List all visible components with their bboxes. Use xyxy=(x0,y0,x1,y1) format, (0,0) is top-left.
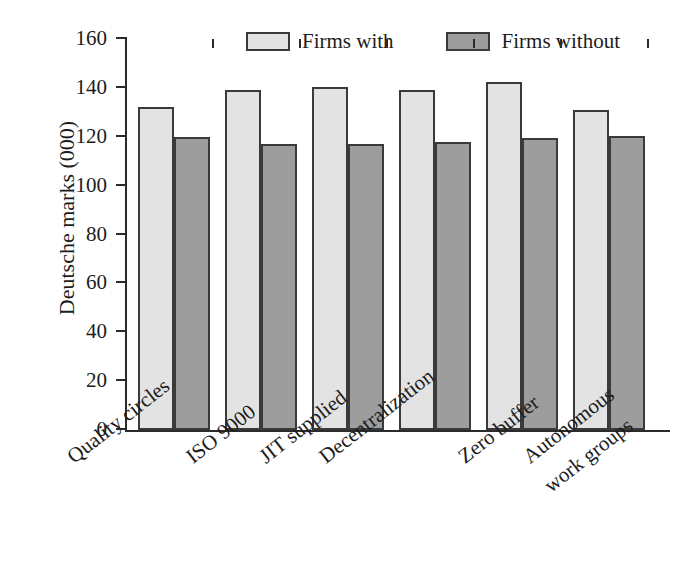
x-tick-6 xyxy=(647,39,649,48)
y-tick-100: 100 xyxy=(116,184,125,186)
x-tick-0 xyxy=(125,39,127,48)
y-tick-20: 20 xyxy=(116,379,125,381)
bar-chart: Firms with Firms without 160 140 120 100… xyxy=(0,0,688,583)
y-tick-120: 120 xyxy=(116,135,125,137)
y-tick-140: 140 xyxy=(116,86,125,88)
bar-firms-without-autonomous-work-groups xyxy=(609,136,645,431)
bar-firms-without-quality-circles xyxy=(174,137,210,430)
bar-firms-without-jit-supplied xyxy=(348,144,384,430)
y-tick-160: 160 xyxy=(116,37,125,39)
y-tick-80: 80 xyxy=(116,233,125,235)
y-axis-title: Deutsche marks (000) xyxy=(56,8,78,428)
bar-firms-with-jit-supplied xyxy=(312,87,348,430)
x-tick-4 xyxy=(473,39,475,48)
y-tick-40: 40 xyxy=(116,330,125,332)
bar-firms-without-decentralization xyxy=(435,142,471,430)
bar-firms-without-zero-buffer xyxy=(522,138,558,430)
plot-area: 160 140 120 100 80 60 40 20 0 xyxy=(125,39,670,430)
bar-firms-with-zero-buffer xyxy=(486,82,522,430)
y-tick-60: 60 xyxy=(116,281,125,283)
x-tick-3 xyxy=(386,39,388,48)
x-tick-2 xyxy=(299,39,301,48)
x-tick-1 xyxy=(212,39,214,48)
x-tick-5 xyxy=(560,39,562,48)
bar-firms-with-iso-9000 xyxy=(225,90,261,430)
bar-firms-without-iso-9000 xyxy=(261,144,297,430)
